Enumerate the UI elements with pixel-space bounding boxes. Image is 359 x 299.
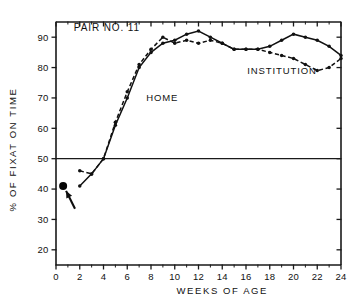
data-point-institution	[185, 38, 189, 42]
y-axis-title: % OF FIXAT ON TIME	[7, 88, 18, 212]
x-tick-label: 16	[241, 271, 252, 282]
data-point-institution	[114, 120, 118, 124]
data-point-institution	[137, 63, 141, 67]
data-point-home	[304, 35, 308, 39]
title-label: PAIR NO. 11	[74, 22, 140, 33]
data-point-home	[339, 54, 343, 58]
x-axis-title: WEEKS OF AGE	[177, 285, 269, 296]
data-point-home	[78, 184, 82, 188]
data-point-institution	[327, 66, 331, 70]
data-point-home	[137, 66, 141, 70]
data-point-home	[209, 35, 213, 39]
data-point-home	[185, 32, 189, 36]
highlight-point-marker	[59, 182, 67, 190]
data-point-institution	[173, 42, 177, 46]
data-point-institution	[339, 57, 343, 61]
data-point-home	[173, 38, 177, 42]
x-tick-label: 22	[312, 271, 323, 282]
x-tick-label: 20	[288, 271, 299, 282]
data-point-institution	[221, 42, 225, 46]
x-tick-label: 24	[336, 271, 347, 282]
x-tick-label: 6	[125, 271, 130, 282]
data-point-institution	[197, 42, 201, 46]
x-tick-label: 0	[53, 271, 58, 282]
data-point-institution	[232, 48, 236, 52]
x-tick-label: 8	[148, 271, 153, 282]
y-tick-label: 60	[38, 123, 49, 134]
data-point-home	[280, 38, 284, 42]
chart-background	[0, 0, 359, 299]
data-point-home	[268, 45, 272, 49]
data-point-institution	[280, 54, 284, 58]
data-point-institution	[268, 51, 272, 55]
y-tick-label: 90	[38, 32, 49, 43]
data-point-institution	[102, 157, 106, 161]
y-tick-label: 30	[38, 214, 49, 225]
data-point-home	[114, 124, 118, 128]
x-tick-label: 4	[101, 271, 106, 282]
y-tick-label: 70	[38, 92, 49, 103]
y-tick-label: 50	[38, 153, 49, 164]
y-tick-label: 80	[38, 62, 49, 73]
x-tick-label: 12	[193, 271, 204, 282]
data-point-institution	[292, 57, 296, 61]
data-point-home	[149, 51, 153, 55]
data-point-institution	[149, 48, 153, 52]
chart-canvas: 2030405060708090 024681012141618202224 H…	[0, 0, 359, 299]
x-tick-label: 10	[169, 271, 180, 282]
data-point-institution	[161, 35, 165, 39]
x-tick-label: 2	[77, 271, 82, 282]
x-tick-label: 14	[217, 271, 228, 282]
chart-figure: 2030405060708090 024681012141618202224 H…	[0, 0, 359, 299]
data-point-institution	[126, 90, 130, 94]
data-point-institution	[78, 169, 82, 173]
data-point-institution	[209, 38, 213, 42]
data-point-home	[161, 42, 165, 46]
x-tick-label: 18	[264, 271, 275, 282]
data-point-institution	[90, 172, 94, 176]
data-point-institution	[256, 48, 260, 52]
data-point-institution	[244, 48, 248, 52]
data-point-home	[327, 45, 331, 49]
home-label: HOME	[146, 92, 178, 103]
data-point-home	[316, 38, 320, 42]
data-point-home	[292, 32, 296, 36]
data-point-home	[126, 96, 130, 100]
y-tick-label: 20	[38, 244, 49, 255]
institution-label: INSTITUTION	[247, 65, 317, 76]
data-point-home	[197, 29, 201, 33]
y-tick-label: 40	[38, 183, 49, 194]
